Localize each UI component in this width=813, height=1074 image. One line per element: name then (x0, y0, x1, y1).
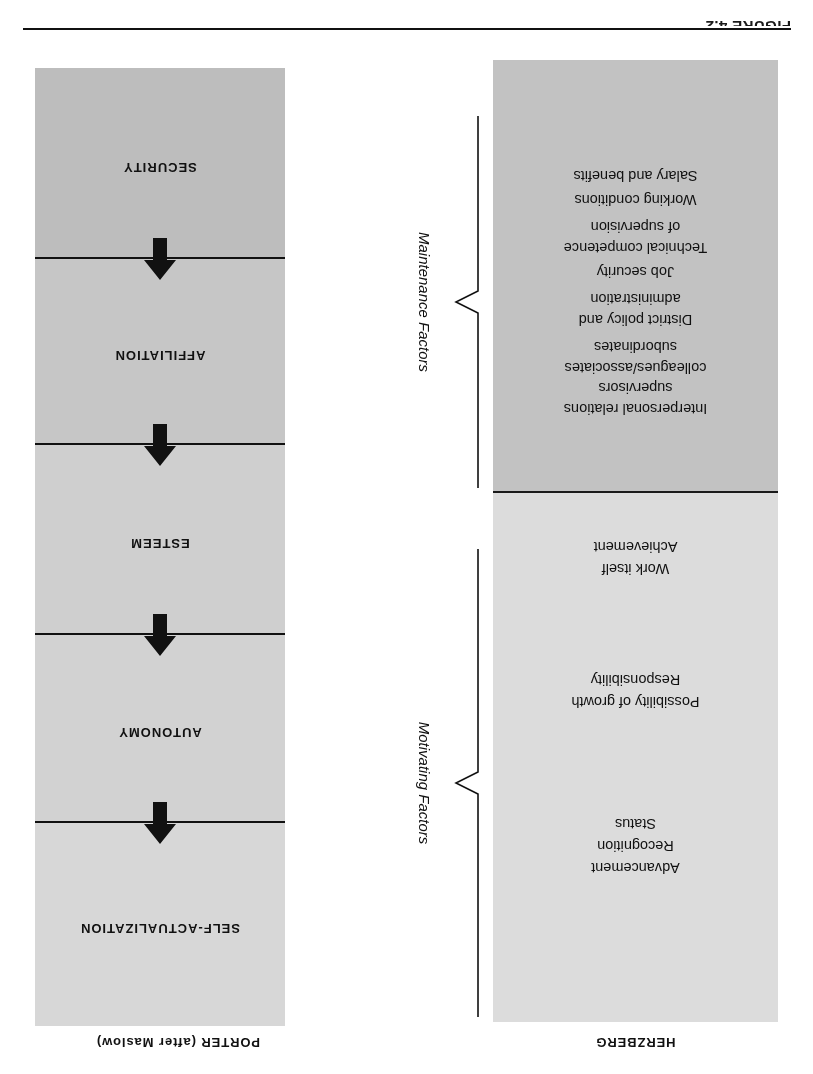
factor-interpersonal-sub-subordinates: subordinates (493, 337, 778, 358)
factor-district-policy-line2: administration (493, 289, 778, 310)
factor-status: Status (493, 813, 778, 834)
factor-technical-competence-line1: Technical competence (564, 240, 707, 256)
up-arrow-icon-autonomy-to-self-actualization (144, 802, 176, 844)
figure-rule (23, 28, 791, 30)
factor-interpersonal-title: Interpersonal relations (564, 401, 707, 417)
up-arrow-icon-security-to-affiliation (144, 238, 176, 280)
factor-working-conditions: Working conditions (493, 189, 778, 210)
need-block-self-actualization: SELF-ACTUALIZATION (35, 823, 285, 1026)
factor-advancement: Advancement (493, 857, 778, 878)
need-block-security: SECURITY (35, 68, 285, 259)
factor-interpersonal-relations: Interpersonal relations supervisors coll… (493, 337, 778, 419)
factor-technical-competence: Technical competence of supervision (493, 217, 778, 258)
factor-interpersonal-sub-supervisors: supervisors (493, 378, 778, 399)
need-block-affiliation: AFFILIATION (35, 259, 285, 445)
figure-caption-text: FIGURE 4.2 (0, 18, 791, 26)
factor-possibility-of-growth: Possibility of growth (493, 691, 778, 712)
up-arrow-icon-affiliation-to-esteem (144, 424, 176, 466)
herzberg-column-heading: HERZBERG (493, 1035, 778, 1050)
factor-interpersonal-sub-colleagues: colleagues/associates (493, 357, 778, 378)
need-label-esteem: ESTEEM (130, 537, 189, 552)
need-block-autonomy: AUTONOMY (35, 635, 285, 823)
porter-column: SECURITY AFFILIATION ESTEEM AUTONOMY SEL… (35, 68, 285, 1026)
factor-work-itself: Work itself (493, 558, 778, 579)
factor-district-policy: District policy and administration (493, 289, 778, 330)
factor-district-policy-line1: District policy and (579, 312, 693, 328)
herzberg-column: Work itself Achievement Possibility of g… (493, 60, 778, 1022)
need-label-affiliation: AFFILIATION (115, 349, 206, 364)
porter-column-heading: PORTER (after Maslow) (33, 1035, 323, 1050)
maintenance-factors-brace (454, 115, 480, 489)
motivating-factors-brace (454, 548, 480, 1018)
maintenance-factors-label: Maintenance Factors (417, 232, 434, 372)
factor-achievement: Achievement (493, 536, 778, 557)
motivating-factors-label: Motivating Factors (417, 722, 434, 845)
factor-technical-competence-line2: of supervision (493, 217, 778, 238)
factor-job-security: Job security (493, 261, 778, 282)
factor-salary-and-benefits: Salary and benefits (493, 165, 778, 186)
figure-root: HERZBERG PORTER (after Maslow) Work itse… (0, 0, 813, 1074)
up-arrow-icon-esteem-to-autonomy (144, 614, 176, 656)
need-label-security: SECURITY (123, 160, 197, 175)
need-label-autonomy: AUTONOMY (118, 726, 202, 741)
need-block-esteem: ESTEEM (35, 445, 285, 635)
factor-recognition: Recognition (493, 835, 778, 856)
factor-responsibility: Responsibility (493, 669, 778, 690)
need-label-self-actualization: SELF-ACTUALIZATION (80, 921, 240, 936)
figure-caption: FIGURE 4.2 (0, 0, 813, 26)
